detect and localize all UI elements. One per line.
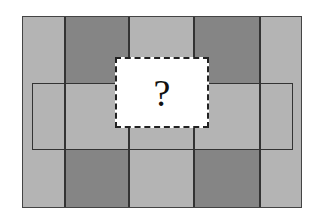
question-mark: ? xyxy=(154,74,171,112)
missing-piece-box: ? xyxy=(115,57,209,128)
